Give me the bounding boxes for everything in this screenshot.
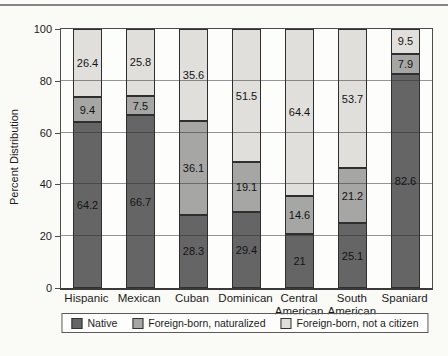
legend-item-foreign-born-naturalized: Foreign-born, naturalized [132,317,265,329]
legend-swatch-native [71,318,82,329]
tick-mark-40 [55,184,61,185]
y-tick-label-20: 20 [40,230,52,242]
figure: Percent Distribution 64.29.426.466.77.52… [0,0,448,356]
bar-cuban: 28.336.135.6 [179,29,208,288]
legend: NativeForeign-born, naturalizedForeign-b… [61,313,428,333]
segment-native: 82.6 [391,74,420,288]
segment-foreign-born-naturalized: 7.9 [391,54,420,74]
segment-foreign-born-not-a-citizen: 25.8 [126,29,155,96]
segment-native: 66.7 [126,115,155,288]
segment-native: 28.3 [179,215,208,288]
tick-mark-60 [55,133,61,134]
legend-swatch-foreign-born-not-a-citizen [281,318,292,329]
value-label: 53.7 [342,93,363,105]
bar-central-american: 2114.664.4 [285,29,314,288]
bar-spaniard: 82.67.99.5 [391,29,420,288]
value-label: 9.4 [80,104,95,116]
segment-foreign-born-not-a-citizen: 64.4 [285,29,314,196]
value-label: 21 [293,255,305,267]
bar-south-american: 25.121.253.7 [338,29,367,288]
gridline-80 [61,80,432,81]
legend-label: Native [87,317,117,329]
value-label: 66.7 [130,196,151,208]
value-label: 7.9 [398,58,413,70]
segment-native: 29.4 [232,212,261,288]
legend-item-native: Native [71,317,117,329]
segment-foreign-born-not-a-citizen: 35.6 [179,29,208,121]
value-label: 21.2 [342,190,363,202]
segment-foreign-born-not-a-citizen: 26.4 [73,29,102,97]
segment-foreign-born-naturalized: 9.4 [73,97,102,121]
legend-label: Foreign-born, naturalized [148,317,265,329]
bar-dominican: 29.419.151.5 [232,29,261,288]
segment-foreign-born-naturalized: 36.1 [179,121,208,214]
value-label: 82.6 [395,175,416,187]
value-label: 36.1 [183,162,204,174]
tick-mark-0 [55,288,61,289]
segment-foreign-born-not-a-citizen: 51.5 [232,29,261,162]
value-label: 29.4 [236,244,257,256]
value-label: 19.1 [236,181,257,193]
value-label: 28.3 [183,245,204,257]
bars-layer: 64.29.426.466.77.525.828.336.135.629.419… [61,29,432,288]
value-label: 9.5 [398,35,413,47]
segment-foreign-born-not-a-citizen: 9.5 [391,29,420,54]
top-rule [0,4,448,6]
y-tick-label-40: 40 [40,178,52,190]
gridline-20 [61,235,432,236]
segment-foreign-born-naturalized: 19.1 [232,162,261,211]
value-label: 25.8 [130,56,151,68]
segment-native: 25.1 [338,223,367,288]
legend-item-foreign-born-not-a-citizen: Foreign-born, not a citizen [281,317,419,329]
segment-foreign-born-naturalized: 14.6 [285,196,314,234]
bar-mexican: 66.77.525.8 [126,29,155,288]
segment-foreign-born-naturalized: 7.5 [126,96,155,115]
y-tick-label-60: 60 [40,127,52,139]
tick-mark-80 [55,81,61,82]
tick-mark-100 [55,29,61,30]
plot-area: 64.29.426.466.77.525.828.336.135.629.419… [60,28,433,290]
gridline-60 [61,132,432,133]
segment-foreign-born-not-a-citizen: 53.7 [338,29,367,168]
value-label: 35.6 [183,69,204,81]
bar-hispanic: 64.29.426.4 [73,29,102,288]
segment-native: 21 [285,234,314,288]
value-label: 14.6 [289,209,310,221]
y-axis-title: Percent Distribution [8,109,20,205]
value-label: 7.5 [133,100,148,112]
y-tick-label-80: 80 [40,75,52,87]
value-label: 25.1 [342,250,363,262]
segment-native: 64.2 [73,122,102,288]
value-label: 51.5 [236,90,257,102]
value-label: 64.2 [77,199,98,211]
y-tick-label-0: 0 [46,282,52,294]
legend-swatch-foreign-born-naturalized [132,318,143,329]
segment-foreign-born-naturalized: 21.2 [338,168,367,223]
tick-mark-20 [55,236,61,237]
value-label: 26.4 [77,57,98,69]
value-label: 64.4 [289,106,310,118]
y-tick-label-100: 100 [34,23,52,35]
legend-label: Foreign-born, not a citizen [297,317,419,329]
